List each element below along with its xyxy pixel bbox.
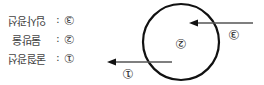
diagram: ③ ② ①	[0, 0, 264, 85]
label-in: ③	[228, 27, 240, 42]
outgoing-arrowhead-icon	[107, 59, 116, 66]
label-out: ①	[122, 66, 134, 81]
incoming-arrowhead-icon	[189, 20, 198, 27]
label-center: ②	[175, 36, 187, 51]
